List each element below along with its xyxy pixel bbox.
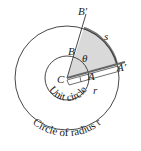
tick: [80, 77, 81, 82]
label-r: r: [93, 84, 98, 96]
label-s: s: [104, 30, 108, 42]
sector-diagram: B′ s B θ A′ C A r Unit circle Circle of …: [0, 0, 141, 151]
label-circle-radius-r: Circle of radius r: [31, 115, 103, 138]
label-A: A: [87, 70, 95, 82]
label-B-prime: B′: [78, 5, 88, 17]
label-A-prime: A′: [116, 61, 127, 73]
label-B: B: [68, 45, 75, 57]
label-unit-circle: Unit circle: [47, 83, 89, 103]
label-theta: θ: [82, 52, 88, 64]
label-C: C: [57, 73, 65, 85]
